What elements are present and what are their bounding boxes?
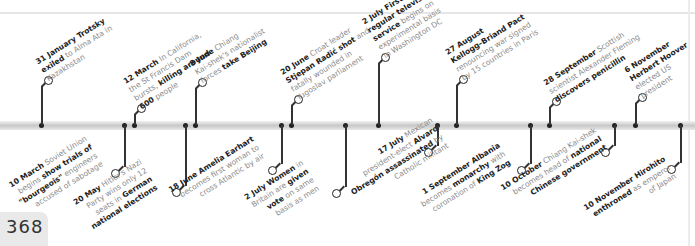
connector-stem [680, 125, 682, 163]
top-rule [0, 12, 695, 14]
event-marker-icon [332, 189, 341, 198]
connector-stem [378, 63, 380, 125]
connector-stem [549, 107, 551, 125]
connector-stem [124, 125, 126, 167]
connector-stem [291, 105, 293, 125]
page-number: 368 [6, 216, 43, 237]
connector-stem [134, 114, 136, 125]
event-label: 8 June ChiangKai-shek's nationalistforce… [188, 18, 272, 86]
event-label: 31 January Trotskyexiled to Alma Ata inK… [34, 15, 120, 84]
connector-stem [195, 88, 197, 125]
connector-stem [530, 125, 532, 164]
event-label: 27 AugustKellogg–Briand Pactrenouncing w… [444, 2, 541, 83]
connector-stem [635, 103, 637, 125]
event-label: 20 June Croat leaderStjepan Radić shot a… [279, 18, 383, 103]
connector-stem [456, 85, 458, 125]
connector-stem [614, 125, 616, 146]
event-label: 2 July Women inBritain are givenvote on … [243, 158, 321, 228]
event-label: 10 November Hirohitoenthroned as emperor… [582, 154, 678, 230]
connector-stem [41, 86, 43, 125]
connector-stem [281, 125, 283, 164]
